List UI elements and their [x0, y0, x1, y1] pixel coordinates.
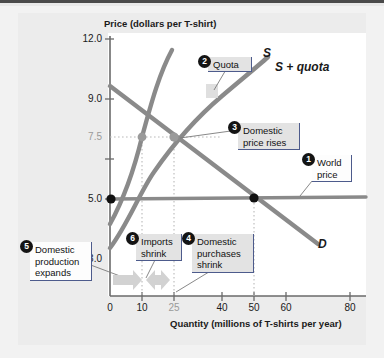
- y-tick-12: 12.0: [72, 33, 102, 44]
- callout-domestic-production-expands-line3: expands: [35, 267, 87, 279]
- callout-imports-shrink-line2: shrink: [141, 248, 177, 260]
- y-tick-5: 5.0: [72, 193, 102, 204]
- x-tick-0: 0: [99, 302, 121, 313]
- callout-4-badge: 4: [182, 232, 195, 245]
- x-tick-10: 10: [131, 302, 153, 313]
- domestic-production-expands-arrow: [113, 270, 142, 290]
- y-tick-9: 9.0: [72, 93, 102, 104]
- callout-6-badge: 6: [126, 232, 139, 245]
- supply-curve-label: S: [263, 46, 271, 60]
- x-tick-80: 80: [339, 302, 361, 313]
- supply-quota-curve-label: S + quota: [275, 60, 329, 74]
- callout-domestic-purchases-shrink-line3: shrink: [197, 259, 249, 271]
- callout-3-badge: 3: [228, 121, 241, 134]
- x-tick-40: 40: [211, 302, 233, 313]
- callout-domestic-purchases-shrink-line1: Domestic: [197, 236, 249, 248]
- callout-1-badge: 1: [302, 153, 315, 166]
- imports-shrink-arrow: [146, 270, 170, 290]
- callout-domestic-production-expands-line1: Domestic: [35, 244, 87, 256]
- demand-curve: [110, 86, 318, 244]
- y-axis-title: Price (dollars per T-shirt): [104, 18, 216, 29]
- callout-imports-shrink-line1: Imports: [141, 236, 177, 248]
- callout-2-badge: 2: [198, 55, 211, 68]
- callout-domestic-price-rises-line1: Domestic: [243, 125, 295, 137]
- callout-world-price: World price: [312, 155, 352, 182]
- x-axis-title: Quantity (millions of T-shirts per year): [170, 318, 342, 329]
- marker-domestic-supply-quota: [138, 133, 147, 142]
- marker-free-trade-quantity: [249, 193, 258, 202]
- x-tick-60: 60: [275, 302, 297, 313]
- figure-root: Price (dollars per T-shirt) Quantity (mi…: [0, 0, 384, 358]
- marker-world-price-intercept: [106, 194, 115, 203]
- callout-domestic-purchases-shrink: Domestic purchases shrink: [192, 234, 254, 273]
- callout-quota: Quota: [208, 57, 252, 72]
- callout-5-badge: 5: [20, 240, 33, 253]
- callout-quota-line1: Quota: [213, 59, 247, 71]
- marker-quota-equilibrium: [169, 132, 178, 141]
- callout-imports-shrink: Imports shrink: [136, 234, 182, 261]
- supply-plus-quota-curve: [110, 57, 268, 248]
- x-tick-25: 25: [163, 302, 185, 313]
- callout-domestic-purchases-shrink-line2: purchases: [197, 248, 249, 260]
- x-tick-50: 50: [243, 302, 265, 313]
- callout-world-price-line2: price: [317, 169, 347, 181]
- callout-domestic-production-expands-line2: production: [35, 256, 87, 268]
- callout-domestic-price-rises: Domestic price rises: [238, 123, 300, 150]
- world-price-line: [110, 197, 366, 199]
- demand-curve-label: D: [318, 237, 327, 251]
- y-tick-7-5: 7.5: [72, 131, 102, 142]
- callout-world-price-line1: World: [317, 157, 347, 169]
- callout-domestic-price-rises-line2: price rises: [243, 137, 295, 149]
- callout-domestic-production-expands: Domestic production expands: [30, 242, 92, 281]
